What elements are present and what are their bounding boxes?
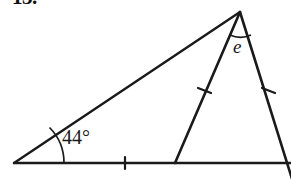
base-angle-label: 44° [62,127,90,147]
triangle-diagram-svg [0,0,291,179]
geometry-figure: 13. 44° e [0,0,291,179]
apex-angle-label: e [233,37,241,56]
